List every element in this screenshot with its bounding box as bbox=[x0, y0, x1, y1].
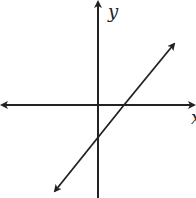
x-axis-label: x bbox=[191, 107, 196, 128]
line bbox=[55, 44, 174, 191]
y-axis-label: y bbox=[107, 1, 119, 22]
graph: y x bbox=[0, 0, 196, 198]
